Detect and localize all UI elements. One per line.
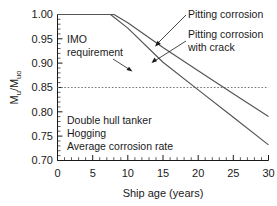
y-axis-title-m1: M <box>8 95 20 104</box>
y-tick-labels: 1.00 0.95 0.90 0.85 0.80 0.75 0.70 <box>32 8 53 166</box>
x-tick-labels: 0 5 10 15 20 25 30 <box>54 167 274 179</box>
y-tick-label: 0.95 <box>32 33 53 45</box>
y-tick-label: 0.90 <box>32 57 53 69</box>
y-axis-title-sub2: uo <box>14 71 23 79</box>
chart-figure: 1.00 0.95 0.90 0.85 0.80 0.75 0.70 0 5 1… <box>0 0 277 206</box>
y-tick-label: 1.00 <box>32 8 53 20</box>
annotation-case-line-2: Hogging <box>67 127 106 139</box>
annotation-case-description: Double hull tanker Hogging Average corro… <box>67 114 173 152</box>
annotation-imo-requirement: IMO requirement <box>67 33 133 72</box>
x-major-ticks <box>58 155 269 161</box>
y-tick-label: 0.70 <box>32 154 53 166</box>
y-axis-title: Mu/Muo <box>8 71 23 105</box>
y-tick-label: 0.80 <box>32 106 53 118</box>
annotation-imo-line-2: requirement <box>67 46 123 58</box>
x-tick-label: 25 <box>227 167 239 179</box>
x-tick-label: 0 <box>54 167 60 179</box>
curve-label-crack-text-1: Pitting corrosion <box>188 28 263 40</box>
x-tick-label: 30 <box>262 167 274 179</box>
x-tick-label: 5 <box>90 167 96 179</box>
annotation-case-line-1: Double hull tanker <box>67 114 152 126</box>
x-axis-title: Ship age (years) <box>123 187 204 199</box>
svg-text:Mu/Muo: Mu/Muo <box>8 71 23 105</box>
curve-label-pitting-text: Pitting corrosion <box>188 8 263 20</box>
y-axis-title-m2: M <box>8 79 20 88</box>
y-tick-label: 0.85 <box>32 81 53 93</box>
x-tick-label: 20 <box>192 167 204 179</box>
curve-label-crack-text-2: with crack <box>187 41 235 53</box>
x-tick-label: 10 <box>122 167 134 179</box>
corrosion-strength-chart: 1.00 0.95 0.90 0.85 0.80 0.75 0.70 0 5 1… <box>0 0 277 206</box>
annotation-case-line-3: Average corrosion rate <box>67 140 173 152</box>
y-tick-label: 0.75 <box>32 130 53 142</box>
x-tick-label: 15 <box>157 167 169 179</box>
annotation-imo-line-1: IMO <box>67 33 87 45</box>
